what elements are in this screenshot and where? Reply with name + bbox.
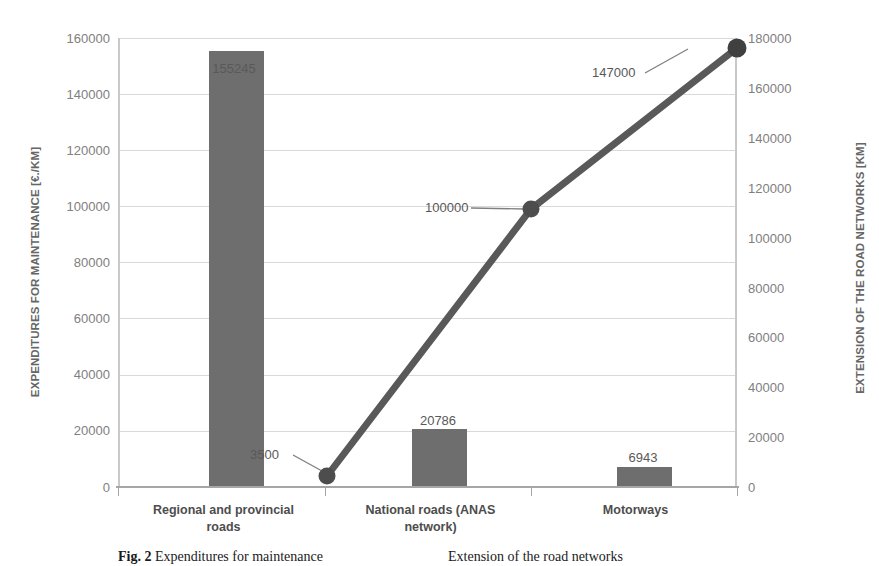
x-category-line2: network) <box>327 519 534 536</box>
x-category-label-national: National roads (ANAS network) <box>327 502 534 536</box>
y-right-tick: 40000 <box>748 381 784 394</box>
x-tickmark <box>325 488 326 496</box>
y-right-tick: 160000 <box>748 82 791 95</box>
y-left-tick: 60000 <box>74 312 110 325</box>
y-right-tick: 60000 <box>748 331 784 344</box>
y-right-tick: 120000 <box>748 182 791 195</box>
x-category-label-motorways: Motorways <box>532 502 739 519</box>
caption-left-text: Expenditures for maintenance <box>155 549 323 564</box>
x-category-line1: Regional and provincial <box>120 502 327 519</box>
figure-container: EXPENDITURES FOR MAINTENANCE [€./KM] EXT… <box>0 0 879 566</box>
line-value-label-100000: 100000 <box>425 201 468 214</box>
caption-figure-number: Fig. 2 <box>118 549 151 564</box>
y-left-tick: 20000 <box>74 424 110 437</box>
bar-national-roads-anas-network[interactable] <box>412 429 467 487</box>
y-right-tick: 180000 <box>748 32 791 45</box>
bar-value-label-national: 20786 <box>378 414 498 427</box>
y-right-tick: 20000 <box>748 431 784 444</box>
x-category-line2: roads <box>120 519 327 536</box>
x-category-label-regional: Regional and provincial roads <box>120 502 327 536</box>
gridline <box>120 38 735 39</box>
y-axis-right-title: EXTENSION OF THE ROAD NETWORKS [KM] <box>854 88 866 448</box>
y-left-tick: 0 <box>103 481 110 494</box>
x-tickmark <box>531 488 532 496</box>
y-right-tick: 140000 <box>748 132 791 145</box>
y-left-tick: 100000 <box>67 200 110 213</box>
x-tickmark <box>118 488 119 496</box>
x-category-line1: Motorways <box>532 502 739 519</box>
bar-value-label-motorways: 6943 <box>583 451 703 464</box>
y-right-tick: 100000 <box>748 232 791 245</box>
x-tickmark <box>737 488 738 496</box>
y-axis-left-title: EXPENDITURES FOR MAINTENANCE [€./KM] <box>29 92 41 452</box>
caption-left-column: Fig. 2 Expenditures for maintenance <box>118 549 448 565</box>
caption-right-text: Extension of the road networks <box>448 549 623 565</box>
figure-caption: Fig. 2 Expenditures for maintenanceExten… <box>118 549 778 565</box>
bar-regional-and-provincial-roads[interactable] <box>209 51 264 487</box>
bar-value-label-regional: 155245 <box>174 62 294 75</box>
y-left-tick: 160000 <box>67 32 110 45</box>
y-left-tick: 40000 <box>74 368 110 381</box>
y-right-tick: 0 <box>748 481 755 494</box>
line-value-label-3500: 3500 <box>250 448 279 461</box>
y-axis-right-ticks: 180000 160000 140000 120000 100000 80000… <box>748 0 828 566</box>
line-value-label-147000: 147000 <box>592 66 635 79</box>
y-right-tick: 80000 <box>748 282 784 295</box>
x-axis-line <box>116 486 739 488</box>
y-left-tick: 120000 <box>67 144 110 157</box>
y-axis-left-ticks: 160000 140000 120000 100000 80000 60000 … <box>42 0 110 566</box>
x-category-line1: National roads (ANAS <box>327 502 534 519</box>
bar-motorways[interactable] <box>617 467 672 487</box>
y-left-tick: 80000 <box>74 256 110 269</box>
y-left-tick: 140000 <box>67 88 110 101</box>
